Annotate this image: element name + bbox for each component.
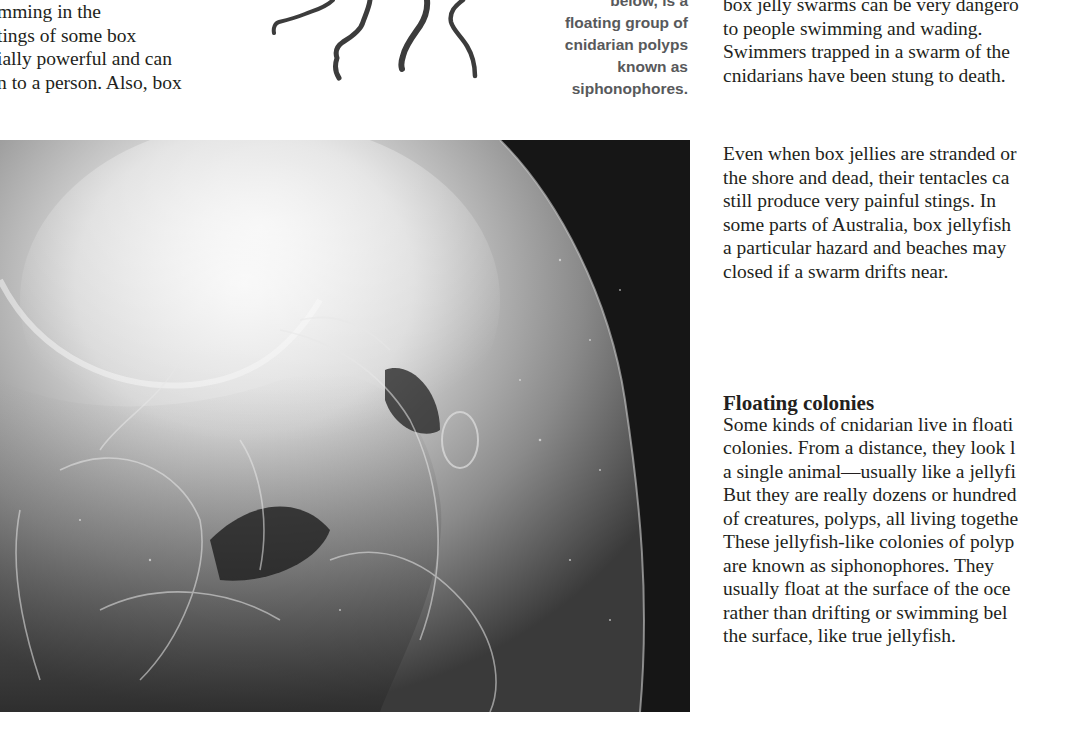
box-jellyfish-photo	[0, 140, 690, 712]
text-line: to people swimming and wading.	[723, 17, 1019, 41]
text-line: ially powerful and can	[0, 47, 182, 71]
text-line: the surface, like true jellyfish.	[723, 624, 1018, 648]
text-line: a single animal—usually like a jellyfi	[723, 460, 1018, 484]
jellyfish-image	[0, 140, 690, 712]
photo-caption: below, is a floating group of cnidarian …	[488, 0, 688, 100]
right-column-paragraph-1: box jelly swarms can be very dangero to …	[723, 0, 1019, 87]
caption-line: known as	[488, 56, 688, 78]
text-line: rather than drifting or swimming bel	[723, 601, 1018, 625]
caption-line: siphonophores.	[488, 78, 688, 100]
floating-colonies-section: Floating colonies Some kinds of cnidaria…	[723, 389, 1018, 648]
text-line: usually float at the surface of the oce	[723, 577, 1018, 601]
text-line: closed if a swarm drifts near.	[723, 260, 1016, 284]
text-line: some parts of Australia, box jellyfish	[723, 213, 1016, 237]
text-line: still produce very painful stings. In	[723, 189, 1016, 213]
text-line: mming in the	[0, 0, 182, 24]
text-line: n to a person. Also, box	[0, 71, 182, 95]
caption-line: cnidarian polyps	[488, 34, 688, 56]
caption-line: floating group of	[488, 12, 688, 34]
text-line: But they are really dozens or hundred	[723, 483, 1018, 507]
right-column-paragraph-2: Even when box jellies are stranded or th…	[723, 142, 1016, 283]
text-line: Swimmers trapped in a swarm of the	[723, 40, 1019, 64]
text-line: cnidarians have been stung to death.	[723, 64, 1019, 88]
text-line: Some kinds of cnidarian live in floati	[723, 413, 1018, 437]
text-line: box jelly swarms can be very dangero	[723, 0, 1019, 17]
caption-line: below, is a	[488, 0, 688, 12]
text-line: are known as siphonophores. They	[723, 554, 1018, 578]
text-line: tings of some box	[0, 24, 182, 48]
tentacles-illustration	[265, 0, 480, 85]
section-heading: Floating colonies	[723, 389, 1018, 413]
text-line: colonies. From a distance, they look l	[723, 436, 1018, 460]
left-column-text: mming in the tings of some box ially pow…	[0, 0, 182, 94]
text-line: a particular hazard and beaches may	[723, 236, 1016, 260]
text-line: of creatures, polyps, all living togethe	[723, 507, 1018, 531]
text-line: These jellyfish-like colonies of polyp	[723, 530, 1018, 554]
text-line: Even when box jellies are stranded or	[723, 142, 1016, 166]
text-line: the shore and dead, their tentacles ca	[723, 166, 1016, 190]
